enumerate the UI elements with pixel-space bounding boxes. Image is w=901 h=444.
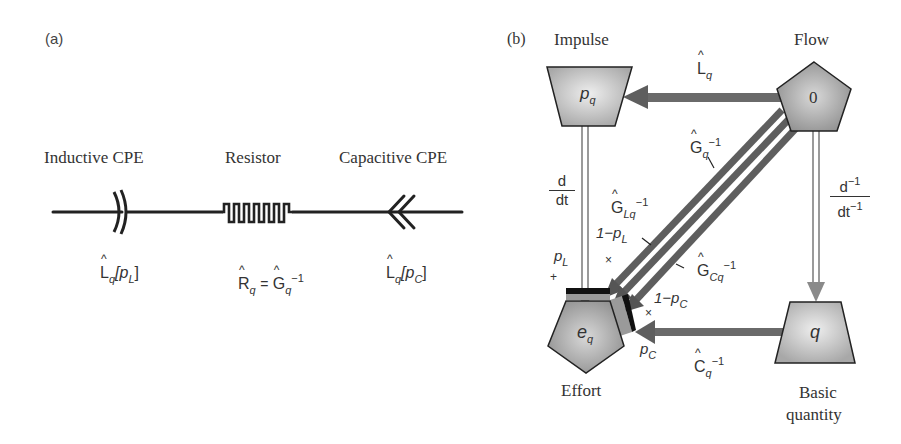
weight-text: 1−p bbox=[654, 289, 679, 306]
basic-quantity-title-line1: Basic bbox=[799, 383, 837, 403]
operator-R: R bbox=[238, 275, 250, 293]
operator: C bbox=[694, 358, 706, 376]
weight-one-minus-pL: 1−pL bbox=[596, 224, 628, 245]
resistor-title: Resistor bbox=[225, 148, 281, 168]
subscript: q bbox=[589, 94, 595, 106]
denominator-text: dt bbox=[837, 203, 850, 220]
panel-a-label: (a) bbox=[45, 30, 63, 47]
operator-L: L bbox=[100, 264, 109, 282]
symbol: q bbox=[810, 322, 820, 342]
numerator: d−1 bbox=[830, 172, 870, 197]
subscript: L bbox=[562, 256, 568, 268]
operator: G bbox=[611, 199, 623, 217]
denominator: dt bbox=[549, 191, 575, 209]
subscript: Lq bbox=[623, 208, 635, 220]
times-sign-L: × bbox=[605, 253, 612, 267]
capacitive-cpe-title: Capacitive CPE bbox=[339, 148, 447, 168]
flow-title: Flow bbox=[794, 30, 829, 50]
arrow-impulse-to-effort bbox=[576, 126, 594, 310]
resistor-expression: Rq = Gq−1 bbox=[238, 272, 304, 296]
label-diag-main: Gq−1 bbox=[690, 136, 721, 160]
inductive-cpe-title: Inductive CPE bbox=[44, 148, 144, 168]
operator: G bbox=[690, 139, 702, 157]
superscript: −1 bbox=[712, 355, 725, 367]
superscript: −1 bbox=[850, 200, 863, 212]
label-diag-L: GLq−1 bbox=[611, 196, 648, 220]
denominator: dt−1 bbox=[830, 197, 870, 221]
subscript: C bbox=[648, 349, 656, 361]
subscript: q bbox=[706, 367, 712, 379]
subscript: Cq bbox=[709, 271, 723, 283]
subscript: q bbox=[706, 69, 712, 81]
subscript: q bbox=[285, 284, 291, 296]
arrow-flow-to-impulse bbox=[623, 85, 783, 109]
panel-b-label: (b) bbox=[507, 30, 526, 48]
weight-text: 1−p bbox=[596, 224, 621, 241]
numerator: d bbox=[549, 172, 575, 191]
flow-node-symbol: 0 bbox=[809, 88, 818, 108]
label-impulse-to-effort: d dt bbox=[549, 172, 575, 209]
inductive-cpe-expression: Lq[pL] bbox=[100, 264, 139, 285]
plus-sign: + bbox=[550, 270, 557, 284]
weight-pC: pC bbox=[640, 340, 656, 361]
argument: [p bbox=[115, 264, 128, 281]
subscript: C bbox=[679, 298, 687, 310]
times-sign-C: × bbox=[645, 306, 652, 320]
label-flow-to-basic: d−1 dt−1 bbox=[830, 172, 870, 221]
effort-title: Effort bbox=[561, 381, 601, 401]
bracket: ] bbox=[135, 264, 139, 281]
symbol: e bbox=[577, 322, 587, 342]
superscript: −1 bbox=[636, 196, 649, 208]
superscript: −1 bbox=[724, 259, 737, 271]
impulse-node-symbol: pq bbox=[580, 84, 596, 106]
impulse-title: Impulse bbox=[554, 30, 609, 50]
subscript: q bbox=[250, 284, 256, 296]
denominator-text: dt bbox=[556, 191, 569, 208]
operator-L: L bbox=[386, 264, 395, 282]
equals: = bbox=[260, 276, 268, 292]
capacitive-cpe-expression: Lq[pC] bbox=[386, 264, 427, 285]
subscript: q bbox=[587, 333, 593, 345]
resistor-symbol bbox=[222, 204, 293, 222]
weight-one-minus-pC: 1−pC bbox=[654, 289, 687, 310]
numerator-text: d bbox=[840, 178, 848, 195]
effort-node-symbol: eq bbox=[577, 322, 593, 345]
operator: L bbox=[697, 60, 706, 78]
operator: G bbox=[697, 262, 709, 280]
subscript: L bbox=[621, 233, 627, 245]
label-diag-C: GCq−1 bbox=[697, 259, 736, 283]
superscript: −1 bbox=[848, 175, 861, 187]
operator-G: G bbox=[273, 275, 285, 293]
arrow-flow-to-basic bbox=[807, 126, 825, 302]
weight-pL: pL bbox=[554, 247, 568, 268]
diagram-graphics bbox=[0, 0, 901, 444]
superscript: −1 bbox=[709, 136, 722, 148]
subscript: q bbox=[702, 148, 708, 160]
superscript: −1 bbox=[291, 272, 304, 284]
basic-quantity-node-symbol: q bbox=[810, 322, 820, 343]
label-flow-to-impulse: Lq bbox=[697, 60, 712, 81]
basic-quantity-title-line2: quantity bbox=[786, 405, 842, 425]
label-basic-to-effort: Cq−1 bbox=[694, 355, 724, 379]
bracket: ] bbox=[422, 264, 426, 281]
arrow-basic-to-effort bbox=[635, 320, 785, 344]
argument: [p bbox=[401, 264, 414, 281]
